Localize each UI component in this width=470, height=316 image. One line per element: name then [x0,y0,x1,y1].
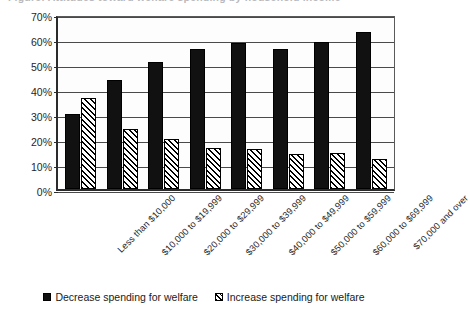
x-axis-labels: Less than $10,000$10,000 to $19,999$20,0… [56,193,395,285]
bar [164,139,179,189]
bar [107,80,122,189]
bar [148,62,163,190]
bar [273,49,288,189]
bar-group [231,17,262,189]
y-axis-tick-label: 50% [31,61,58,73]
bar-group [314,17,345,189]
bar [206,148,221,189]
legend-swatch [43,293,51,301]
bar [190,49,205,189]
legend-item: Decrease spending for welfare [43,291,197,303]
bar [65,114,80,189]
bar [289,154,304,189]
bar-groups [58,17,394,189]
y-axis-tick-label: 10% [31,161,58,173]
legend-swatch [215,293,223,301]
plot-area: 0%10%20%30%40%50%60%70% [56,16,395,191]
bar [372,159,387,189]
bar-group [65,17,96,189]
legend-label: Increase spending for welfare [227,291,365,303]
bar [356,32,371,190]
bar [123,129,138,189]
legend-item: Increase spending for welfare [215,291,365,303]
bar-group [148,17,179,189]
chart-legend: Decrease spending for welfareIncrease sp… [0,291,408,303]
legend-label: Decrease spending for welfare [55,291,197,303]
bar-group [356,17,387,189]
y-axis-tick-label: 70% [31,11,58,23]
bar [81,98,96,189]
y-axis-tick-label: 20% [31,136,58,148]
y-axis-tick-label: 0% [37,186,58,198]
bar [314,42,329,190]
cut-off-title-text: Figure: Attitudes toward welfare spendin… [8,0,400,3]
y-axis-tick-label: 40% [31,86,58,98]
bar-group [190,17,221,189]
y-axis-tick-label: 30% [31,111,58,123]
bar [330,153,345,189]
bar [247,149,262,189]
bar-group [107,17,138,189]
bar-group [273,17,304,189]
bar [231,43,246,189]
y-axis-tick-label: 60% [31,36,58,48]
